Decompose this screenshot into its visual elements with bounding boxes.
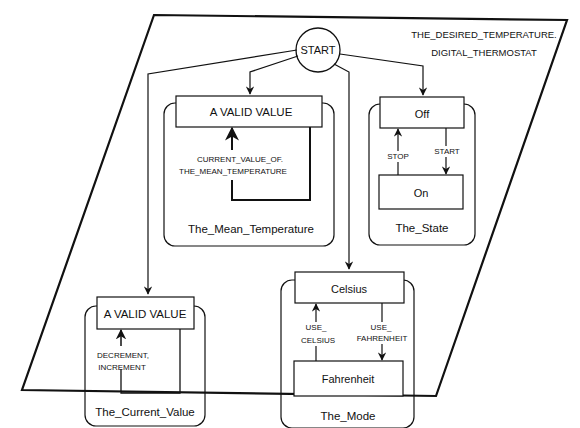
diagram-title-line1: THE_DESIRED_TEMPERATURE. (411, 29, 557, 40)
svg-text:Off: Off (415, 108, 430, 120)
svg-text:INCREMENT: INCREMENT (98, 363, 146, 372)
statechart-diagram: THE_DESIRED_TEMPERATURE. DIGITAL_THERMOS… (0, 0, 580, 428)
svg-text:DECREMENT,: DECREMENT, (97, 351, 149, 360)
svg-text:On: On (414, 187, 429, 199)
svg-text:STOP: STOP (387, 152, 409, 161)
svg-text:The_Mode: The_Mode (321, 410, 376, 422)
start-node: START (296, 28, 340, 72)
svg-text:A VALID VALUE: A VALID VALUE (210, 106, 293, 118)
svg-text:The_Mean_Temperature: The_Mean_Temperature (188, 223, 314, 235)
svg-text:The_Current_Value: The_Current_Value (95, 406, 195, 418)
svg-text:Celsius: Celsius (331, 283, 368, 295)
svg-text:FAHRENHEIT: FAHRENHEIT (357, 334, 408, 343)
region-the-mode: Celsius Fahrenheit USE_ CELSIUS USE_ FAH… (281, 272, 414, 428)
diagram-title-line2: DIGITAL_THERMOSTAT (431, 47, 537, 58)
region-the-mean-temperature: A VALID VALUE CURRENT_VALUE_OF. THE_MEAN… (164, 96, 334, 246)
svg-text:A VALID VALUE: A VALID VALUE (104, 308, 187, 320)
region-the-current-value: A VALID VALUE DECREMENT, INCREMENT The_C… (85, 297, 205, 426)
region-the-state: Off On STOP START The_State (369, 97, 475, 245)
svg-text:Fahrenheit: Fahrenheit (322, 373, 375, 385)
svg-text:START: START (300, 44, 335, 56)
system-boundary-parallelogram (22, 15, 567, 396)
svg-text:CELSIUS: CELSIUS (301, 336, 335, 345)
svg-text:CURRENT_VALUE_OF.: CURRENT_VALUE_OF. (197, 155, 283, 164)
svg-text:The_State: The_State (395, 222, 448, 234)
svg-text:USE_: USE_ (371, 323, 392, 332)
svg-text:USE_: USE_ (306, 323, 327, 332)
svg-text:THE_MEAN_TEMPERATURE: THE_MEAN_TEMPERATURE (179, 167, 287, 176)
svg-text:START: START (434, 147, 460, 156)
